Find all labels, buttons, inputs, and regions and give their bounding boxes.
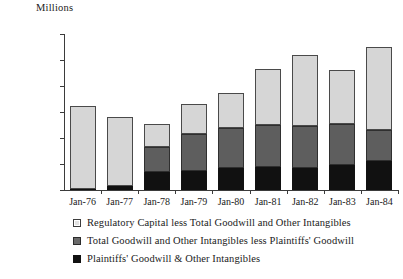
y-axis-tick — [60, 112, 64, 113]
y-axis-unit-label: Millions — [36, 2, 73, 13]
bar-segment[interactable] — [329, 165, 355, 190]
bar-segment[interactable] — [292, 126, 318, 168]
x-axis-tick — [287, 190, 288, 194]
legend-item[interactable]: Plaintiffs' Goodwill & Other Intangibles — [73, 250, 403, 268]
bar-segment[interactable] — [366, 130, 392, 161]
stacked-bar-chart: Millions $60,000$50,000$40,000$30,000$20… — [0, 0, 403, 279]
light-gray-square-icon — [73, 219, 81, 227]
legend-item-label: Regulatory Capital less Total Goodwill a… — [87, 217, 351, 229]
bar-segment[interactable] — [70, 106, 96, 190]
legend-item[interactable]: Regulatory Capital less Total Goodwill a… — [73, 214, 403, 232]
bar-segment[interactable] — [366, 161, 392, 190]
bar-segment[interactable] — [181, 171, 207, 191]
bar-segment[interactable] — [329, 124, 355, 166]
y-axis-line — [64, 34, 65, 190]
bar-segment[interactable] — [144, 172, 170, 190]
bar-segment[interactable] — [255, 167, 281, 190]
x-axis-line — [64, 190, 398, 191]
mid-gray-square-icon — [73, 237, 81, 245]
bar-segment[interactable] — [292, 168, 318, 190]
chart-legend: Regulatory Capital less Total Goodwill a… — [73, 214, 403, 268]
y-axis-tick — [60, 164, 64, 165]
y-axis-tick — [60, 60, 64, 61]
legend-item-label: Total Goodwill and Other Intangibles les… — [87, 235, 354, 247]
bar-segment[interactable] — [255, 69, 281, 125]
bar-segment[interactable] — [144, 124, 170, 147]
x-axis-tick — [212, 190, 213, 194]
bar-segment[interactable] — [181, 104, 207, 134]
bar-segment[interactable] — [218, 93, 244, 128]
x-axis-tick — [101, 190, 102, 194]
x-axis-tick — [175, 190, 176, 194]
x-axis-tick — [324, 190, 325, 194]
x-axis-tick-label: Jan-84 — [351, 196, 403, 207]
x-axis-tick — [361, 190, 362, 194]
bar-segment[interactable] — [218, 128, 244, 168]
legend-item[interactable]: Total Goodwill and Other Intangibles les… — [73, 232, 403, 250]
bar-segment[interactable] — [329, 70, 355, 123]
bar-segment[interactable] — [292, 55, 318, 127]
x-axis-tick — [250, 190, 251, 194]
x-axis-tick — [138, 190, 139, 194]
y-axis-tick — [60, 138, 64, 139]
plot-area: $60,000$50,000$40,000$30,000$20,000$10,0… — [64, 34, 398, 190]
legend-item-label: Plaintiffs' Goodwill & Other Intangibles — [87, 253, 260, 265]
y-axis-tick — [60, 34, 64, 35]
bar-segment[interactable] — [144, 147, 170, 172]
bar-segment[interactable] — [107, 186, 133, 190]
x-axis-tick — [398, 190, 399, 194]
y-axis-tick — [60, 190, 64, 191]
bar-segment[interactable] — [366, 47, 392, 130]
y-axis-tick — [60, 86, 64, 87]
bar-segment[interactable] — [218, 168, 244, 190]
bar-segment[interactable] — [181, 134, 207, 170]
black-square-icon — [73, 255, 81, 263]
bar-segment[interactable] — [107, 117, 133, 186]
bar-segment[interactable] — [255, 125, 281, 167]
